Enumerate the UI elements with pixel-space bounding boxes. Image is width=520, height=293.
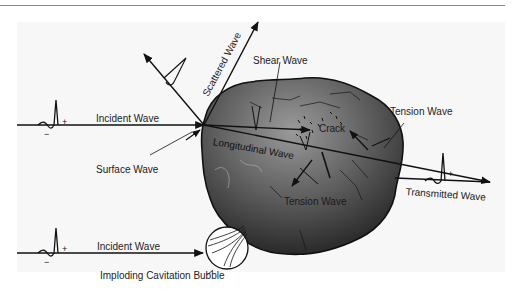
pulse-waveform-incident-bottom: [38, 228, 58, 256]
pulse-minus-sign-bottom: −: [44, 258, 49, 267]
pulse-plus-sign-bottom: +: [62, 245, 67, 254]
label-shear-wave: Shear Wave: [253, 56, 308, 66]
label-surface-wave: Surface Wave: [96, 165, 158, 175]
pulse-waveform-incident-top: [38, 100, 58, 128]
label-tension-wave-right: Tension Wave: [390, 107, 452, 117]
surface-wave-leader: [150, 132, 192, 155]
surface-wave-arrow: [186, 130, 200, 140]
label-tension-wave-bottom: Tension Wave: [284, 197, 346, 207]
label-crack: Crack: [319, 124, 345, 134]
pulse-plus-sign-transmitted: +: [448, 170, 453, 179]
label-incident-wave-top: Incident Wave: [96, 114, 159, 124]
pulse-plus-sign-top: +: [62, 118, 67, 127]
cavitation-bubble: [206, 226, 248, 269]
label-incident-wave-bottom: Incident Wave: [97, 242, 160, 252]
pulse-minus-sign-top: −: [44, 130, 49, 139]
label-imploding-bubble: Imploding Cavitation Bubble: [100, 271, 225, 281]
pulse-waveform-transmitted: [425, 153, 445, 183]
